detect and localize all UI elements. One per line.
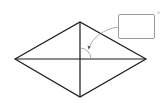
angle-marker-arc: [80, 48, 91, 59]
arrowhead-icon: [88, 46, 91, 50]
answer-input-box[interactable]: [118, 14, 155, 39]
degree-symbol: °: [157, 11, 160, 17]
